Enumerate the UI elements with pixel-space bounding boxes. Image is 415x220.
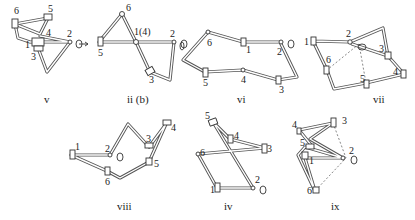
label-5: 5 xyxy=(205,110,210,121)
label-1: 1 xyxy=(309,155,314,166)
panel-ii-b: 6 1(4) 2 5 3 ii (b) xyxy=(98,2,187,106)
joint-1 xyxy=(302,152,308,159)
caption-vii: vii xyxy=(373,93,385,105)
label-3: 3 xyxy=(146,133,151,144)
label-3: 3 xyxy=(149,74,154,85)
joint-2 xyxy=(172,40,176,44)
joint-6 xyxy=(324,66,329,74)
joint-5 xyxy=(44,14,52,20)
panel-vi: 6 1 2 4 5 3 vi xyxy=(180,30,297,105)
label-5: 5 xyxy=(48,3,53,14)
joint-1 xyxy=(215,183,220,192)
label-2: 2 xyxy=(170,28,175,39)
label-4: 4 xyxy=(171,122,176,133)
joint-5 xyxy=(203,68,208,77)
joint-1-4 xyxy=(32,38,44,46)
label-3: 3 xyxy=(379,43,384,54)
panel-vii: 1 2 3 4 5 6 vii xyxy=(304,28,406,105)
joint-5 xyxy=(306,144,314,149)
joint-4 xyxy=(228,135,233,143)
label-4: 4 xyxy=(393,66,398,77)
joint-2 xyxy=(348,40,352,44)
joint-3 xyxy=(276,76,281,84)
label-4: 4 xyxy=(241,74,246,85)
label-6: 6 xyxy=(14,5,19,16)
label-1: 1 xyxy=(75,141,80,152)
panel-v: 6 5 4 1 3 2 v xyxy=(12,3,88,105)
label-1: 1 xyxy=(25,39,30,50)
joint-6 xyxy=(206,30,210,34)
joint-2 xyxy=(68,40,72,44)
rotation-icon-left xyxy=(180,42,184,50)
label-1: 1 xyxy=(210,184,215,195)
joint-5 xyxy=(146,158,152,165)
label-5: 5 xyxy=(98,47,103,58)
arrow-icon xyxy=(79,42,88,46)
joint-6 xyxy=(313,187,319,193)
panel-ix: 3 4 5 1 2 6 ix xyxy=(292,115,357,212)
rotation-icon xyxy=(260,186,266,194)
label-6: 6 xyxy=(105,176,110,187)
label-5: 5 xyxy=(203,77,208,88)
rotation-icon xyxy=(117,153,123,161)
label-2: 2 xyxy=(255,174,260,185)
label-3: 3 xyxy=(342,115,347,126)
joint-3 xyxy=(385,52,391,59)
joint-4 xyxy=(163,120,171,125)
joint-1 xyxy=(311,37,316,45)
label-3: 3 xyxy=(279,84,284,95)
label-5: 5 xyxy=(154,158,159,169)
linkage-diagram-figure: 6 5 4 1 3 2 v 6 1(4) 2 5 3 ii (b) 6 xyxy=(0,0,415,220)
caption-ix: ix xyxy=(331,200,340,212)
label-4: 4 xyxy=(292,119,297,130)
label-6: 6 xyxy=(307,185,312,196)
caption-vi: vi xyxy=(237,93,246,105)
joint-5 xyxy=(98,37,103,46)
rotation-icon xyxy=(288,40,294,48)
label-1: 1 xyxy=(246,44,251,55)
panel-iv: 5 4 3 6 1 2 iv xyxy=(196,110,272,212)
linkage-diagrams: 6 5 4 1 3 2 v 6 1(4) 2 5 3 ii (b) 6 xyxy=(0,0,415,220)
rotation-icon xyxy=(351,156,357,164)
joint-6 xyxy=(120,12,125,17)
label-5: 5 xyxy=(360,73,365,84)
label-1-4: 1(4) xyxy=(134,26,151,38)
joint-4 xyxy=(401,70,406,78)
label-2: 2 xyxy=(346,28,351,39)
label-4: 4 xyxy=(46,27,51,38)
label-6: 6 xyxy=(200,147,205,158)
caption-v: v xyxy=(44,93,50,105)
panel-viii: 1 2 3 4 5 6 viii xyxy=(70,120,176,212)
caption-ii-b: ii (b) xyxy=(127,93,149,106)
label-5: 5 xyxy=(300,137,305,148)
label-1: 1 xyxy=(304,36,309,47)
joint-6 xyxy=(105,167,110,175)
label-2: 2 xyxy=(349,145,354,156)
joint-6 xyxy=(12,19,18,28)
joint-4 xyxy=(297,128,301,134)
label-4: 4 xyxy=(234,130,239,141)
caption-iv: iv xyxy=(224,200,233,212)
label-6: 6 xyxy=(126,2,131,13)
label-6: 6 xyxy=(326,54,331,65)
joint-1-4 xyxy=(134,40,139,45)
joint-2 xyxy=(341,156,345,160)
label-3: 3 xyxy=(31,51,36,62)
joint-2 xyxy=(251,186,255,190)
joint-3 xyxy=(331,118,336,127)
label-3: 3 xyxy=(267,143,272,154)
joint-2 xyxy=(279,40,283,44)
caption-viii: viii xyxy=(117,200,132,212)
label-6: 6 xyxy=(207,37,212,48)
joint-4 xyxy=(241,68,245,72)
label-2: 2 xyxy=(277,46,282,57)
label-2: 2 xyxy=(105,143,110,154)
label-2: 2 xyxy=(67,28,72,39)
